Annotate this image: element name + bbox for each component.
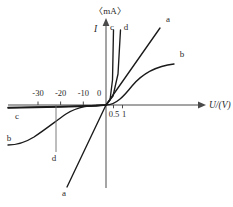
x-tick-label-minus-20: -20: [55, 88, 66, 98]
x-tick-label-minus-30: -30: [32, 88, 43, 98]
y-axis-label: I: [93, 24, 98, 34]
x-tick-label-minus-10: -10: [78, 88, 89, 98]
x-tick-label-one: 1: [122, 109, 126, 119]
curve-label-a-upper: a: [166, 14, 170, 24]
curve-label-b-left: b: [7, 133, 12, 143]
curve-label-d-top: d: [124, 22, 129, 32]
curve-label-d-lower: d: [52, 153, 57, 163]
curve-label-c-left: c: [15, 111, 19, 121]
curve-label-c-top: c: [110, 22, 114, 32]
x-tick-label-zero-point-five: 0.5: [109, 109, 120, 119]
y-axis-arrowhead: [103, 18, 110, 26]
iv-curve-chart: -30 -20 -10 0 0.5 1 〈mA〉 I U/(V) a a b b…: [0, 0, 233, 207]
y-axis-unit-label: 〈mA〉: [94, 6, 126, 16]
curve-label-a-lower: a: [62, 188, 66, 198]
x-tick-label-zero: 0: [97, 88, 101, 98]
iv-characteristic-figure: -30 -20 -10 0 0.5 1 〈mA〉 I U/(V) a a b b…: [0, 0, 233, 207]
x-axis-label: U/(V): [209, 100, 231, 111]
curve-label-b-right: b: [180, 49, 185, 59]
x-axis-arrowhead: [198, 102, 206, 109]
